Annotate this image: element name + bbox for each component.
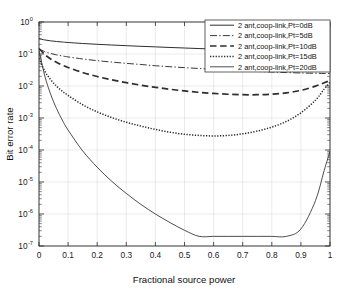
y-tick-label: 10-4 xyxy=(18,144,33,155)
x-tick-label: 0.2 xyxy=(91,250,103,260)
y-axis-title: Bit error rate xyxy=(4,107,15,160)
chart-legend: 2 ant,coop-link,Pt=0dB2 ant,coop-link,Pt… xyxy=(205,20,330,72)
legend-label: 2 ant,coop-link,Pt=5dB xyxy=(238,31,313,40)
y-tick-label: 10-6 xyxy=(18,208,33,219)
x-tick-label: 0.6 xyxy=(208,250,220,260)
x-tick-label: 0.4 xyxy=(150,250,162,260)
y-tick-label: 10-1 xyxy=(18,48,33,59)
x-tick-label: 0.5 xyxy=(179,250,191,260)
x-tick-label: 1 xyxy=(328,250,333,260)
bit-error-rate-chart: 00.10.20.30.40.50.60.70.80.9110010-110-2… xyxy=(0,0,346,290)
legend-label: 2 ant,coop-link,Pt=10dB xyxy=(238,42,317,51)
y-tick-label: 10-2 xyxy=(18,80,33,91)
x-tick-label: 0.7 xyxy=(237,250,249,260)
legend-label: 2 ant,coop-link,Pt=20dB xyxy=(238,63,317,72)
y-tick-label: 100 xyxy=(20,16,33,27)
x-tick-label: 0 xyxy=(37,250,42,260)
x-axis-title: Fractional source power xyxy=(133,274,236,285)
x-tick-label: 0.1 xyxy=(62,250,74,260)
x-tick-label: 0.8 xyxy=(266,250,278,260)
x-tick-label: 0.9 xyxy=(295,250,307,260)
y-tick-label: 10-7 xyxy=(18,240,33,251)
y-tick-label: 10-3 xyxy=(18,112,33,123)
figure-container: 00.10.20.30.40.50.60.70.80.9110010-110-2… xyxy=(0,0,346,290)
legend-label: 2 ant,coop-link,Pt=15dB xyxy=(238,52,317,61)
y-tick-label: 10-5 xyxy=(18,176,33,187)
legend-label: 2 ant,coop-link,Pt=0dB xyxy=(238,21,313,30)
x-tick-label: 0.3 xyxy=(121,250,133,260)
